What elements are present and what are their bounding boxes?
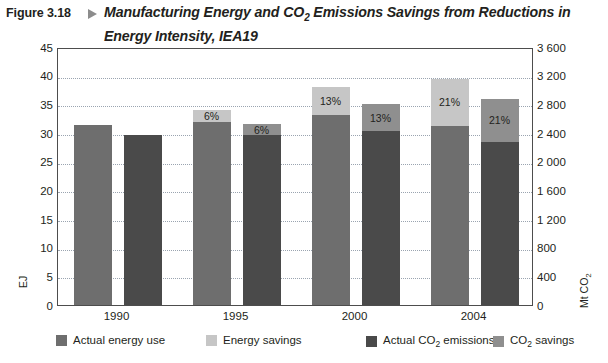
y-tick-label-right: 800 bbox=[537, 243, 587, 255]
bar-segment-actual bbox=[312, 115, 350, 305]
legend-swatch-icon bbox=[366, 336, 377, 347]
x-tick-label-2004: 2004 bbox=[424, 310, 524, 322]
bar-segment-actual bbox=[193, 122, 231, 305]
bar-segment-actual bbox=[362, 131, 400, 305]
y-tick-label-left: 0 bbox=[7, 301, 53, 313]
legend-swatch-icon bbox=[56, 335, 67, 346]
y-tick-label-right: 2 800 bbox=[537, 100, 587, 112]
bar-group: 6%6% bbox=[193, 47, 281, 305]
bar-actual-co2-emissions-1995[interactable]: 6% bbox=[243, 124, 281, 305]
bar-actual-energy-use-1990[interactable] bbox=[74, 125, 112, 305]
y-tick-label-left: 10 bbox=[7, 243, 53, 255]
bar-value-label: 13% bbox=[312, 95, 350, 107]
bar-segment-actual bbox=[124, 135, 162, 305]
bar-actual-energy-use-2000[interactable]: 13% bbox=[312, 87, 350, 305]
bar-actual-co2-emissions-2004[interactable]: 21% bbox=[481, 99, 519, 305]
legend-swatch-icon bbox=[493, 336, 504, 347]
x-tick-label-2000: 2000 bbox=[305, 310, 405, 322]
legend-actual-energy-use[interactable]: Actual energy use bbox=[56, 334, 165, 346]
bar-segment-actual bbox=[481, 142, 519, 305]
bar-segment-actual bbox=[243, 135, 281, 305]
bar-actual-energy-use-1995[interactable]: 6% bbox=[193, 110, 231, 305]
legend-actual-co2-emissions[interactable]: Actual CO2 emissions bbox=[366, 334, 494, 349]
triangle-right-icon bbox=[88, 9, 97, 19]
x-tick-label-1995: 1995 bbox=[186, 310, 286, 322]
y-tick-label-left: 40 bbox=[7, 71, 53, 83]
legend-energy-savings[interactable]: Energy savings bbox=[206, 334, 302, 346]
x-tick-label-1990: 1990 bbox=[67, 310, 167, 322]
bar-actual-co2-emissions-1990[interactable] bbox=[124, 135, 162, 305]
bar-value-label: 21% bbox=[481, 114, 519, 126]
figure-number: Figure 3.18 bbox=[6, 6, 71, 20]
legend-swatch-icon bbox=[206, 335, 217, 346]
y-tick-label-left: 35 bbox=[7, 100, 53, 112]
y-tick-label-left: 5 bbox=[7, 272, 53, 284]
y-axis-right: 04008001 2001 6002 0002 4002 8003 2003 6… bbox=[537, 48, 589, 306]
bar-segment-actual bbox=[431, 126, 469, 305]
figure-title: Manufacturing Energy and CO2 Emissions S… bbox=[104, 3, 604, 46]
y-tick-label-left: 30 bbox=[7, 129, 53, 141]
bar-value-label: 13% bbox=[362, 112, 400, 124]
legend-co2-savings[interactable]: CO2 savings bbox=[493, 334, 574, 349]
bar-value-label: 6% bbox=[193, 110, 231, 122]
y-tick-label-right: 2 000 bbox=[537, 157, 587, 169]
bar-group: 21%21% bbox=[431, 47, 519, 305]
figure-header: Figure 3.18 Manufacturing Energy and CO2… bbox=[0, 0, 608, 44]
bar-actual-energy-use-2004[interactable]: 21% bbox=[431, 79, 469, 305]
bar-group: 13%13% bbox=[312, 47, 400, 305]
bar-group bbox=[74, 47, 162, 305]
y-tick-label-right: 2 400 bbox=[537, 129, 587, 141]
legend-label: CO2 savings bbox=[510, 334, 574, 349]
figure-title-line1-pre: Manufacturing Energy and CO bbox=[104, 4, 304, 20]
y-tick-label-right: 3 200 bbox=[537, 71, 587, 83]
figure-title-line1-post: Emissions Savings from Reductions bbox=[310, 4, 555, 20]
bar-value-label: 21% bbox=[431, 96, 469, 108]
bar-segment-actual bbox=[74, 125, 112, 305]
y-tick-label-right: 3 600 bbox=[537, 43, 587, 55]
y-tick-label-left: 45 bbox=[7, 43, 53, 55]
y-tick-label-right: 1 200 bbox=[537, 215, 587, 227]
chart-legend: Actual energy useEnergy savingsActual CO… bbox=[0, 334, 608, 354]
y-tick-label-left: 25 bbox=[7, 157, 53, 169]
y-tick-label-left: 20 bbox=[7, 186, 53, 198]
legend-label: Actual energy use bbox=[73, 334, 165, 346]
bar-actual-co2-emissions-2000[interactable]: 13% bbox=[362, 104, 400, 305]
y-tick-label-left: 15 bbox=[7, 215, 53, 227]
legend-label: Energy savings bbox=[223, 334, 302, 346]
legend-label: Actual CO2 emissions bbox=[383, 334, 494, 349]
y-axis-left: 051015202530354045 bbox=[5, 48, 53, 306]
y-tick-label-right: 1 600 bbox=[537, 186, 587, 198]
y-axis-left-label: EJ bbox=[17, 276, 29, 288]
plot-area: 6%6%13%13%21%21% bbox=[57, 48, 533, 306]
bar-value-label: 6% bbox=[243, 124, 281, 136]
x-axis: 1990199520002004 bbox=[57, 308, 533, 326]
y-axis-right-label: Mt CO2 bbox=[578, 273, 593, 308]
